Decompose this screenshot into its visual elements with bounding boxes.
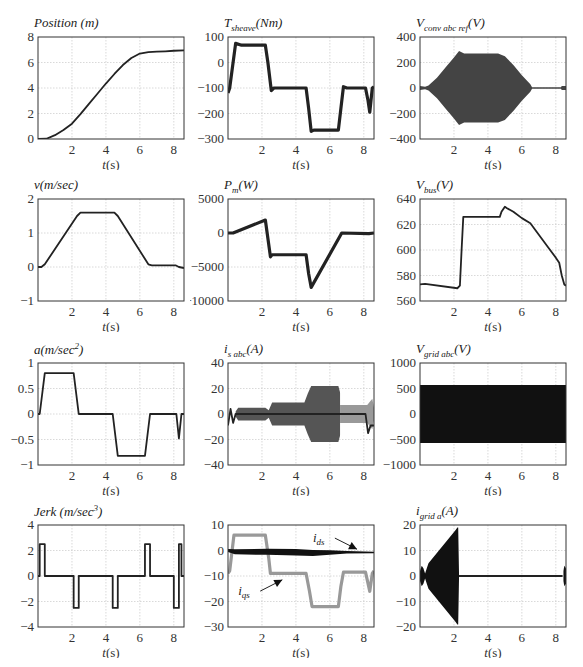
y-tick-label: 200 — [397, 55, 417, 70]
panel-i-s-abc: is abc(A)2468−40−2002040t(s) — [190, 326, 385, 496]
plot-frame — [228, 199, 374, 301]
y-tick-label: −20 — [396, 619, 416, 634]
series-envelope — [420, 51, 566, 125]
panel-v-conv-abc-ref: Vconv abc ref(V)2468−400−2000200400t(s) — [382, 0, 582, 170]
y-tick-label: 620 — [397, 217, 417, 232]
x-tick-label: 8 — [361, 142, 368, 157]
y-tick-label: 1 — [28, 225, 35, 240]
y-tick-label: 2 — [28, 191, 35, 206]
x-tick-label: 8 — [171, 630, 178, 645]
y-tick-label: −10 — [204, 568, 224, 583]
chart-svg: 2468−20−1001020t(s) — [382, 488, 582, 658]
x-tick-label: 2 — [259, 468, 266, 483]
x-tick-label: 8 — [361, 304, 368, 319]
x-axis-label: t(s) — [484, 645, 501, 658]
panel-jerk: Jerk (m/sec3)2468−4−2024t(s) — [0, 488, 195, 658]
chart-svg: 2468−1012t(s) — [0, 162, 195, 332]
x-tick-label: 2 — [69, 142, 76, 157]
y-tick-label: −20 — [204, 594, 224, 609]
x-tick-label: 2 — [451, 630, 458, 645]
y-tick-label: 8 — [28, 29, 35, 44]
series-T_sheave — [228, 43, 374, 131]
chart-svg: 2468−10000−500005000t(s) — [190, 162, 385, 332]
chart-svg: 2468−1000−50005001000t(s) — [382, 326, 582, 496]
chart-svg: idsiqs2468−30−20−10010t(s) — [190, 488, 385, 658]
x-tick-label: 6 — [519, 630, 526, 645]
y-tick-label: 4 — [28, 80, 35, 95]
panel-acceleration: a(m/sec2)2468−1−0.500.51t(s) — [0, 326, 195, 496]
y-tick-label: −2 — [20, 594, 34, 609]
y-tick-label: 400 — [397, 29, 417, 44]
x-tick-label: 6 — [519, 468, 526, 483]
x-tick-label: 6 — [137, 304, 144, 319]
y-tick-label: 5000 — [198, 191, 224, 206]
y-tick-label: 0 — [218, 406, 225, 421]
y-tick-label: 580 — [397, 268, 417, 283]
series-P_m — [228, 220, 374, 287]
y-tick-label: 1000 — [390, 355, 416, 370]
x-tick-label: 4 — [293, 142, 300, 157]
y-tick-label: −1000 — [383, 457, 416, 472]
x-tick-label: 8 — [553, 304, 560, 319]
x-tick-label: 4 — [293, 304, 300, 319]
x-tick-label: 2 — [259, 630, 266, 645]
x-tick-label: 2 — [451, 468, 458, 483]
panel-t-sheave: Tsheave(Nm)2468−300−200−1000100t(s) — [190, 0, 385, 170]
y-tick-label: −300 — [197, 131, 224, 146]
y-tick-label: −20 — [204, 432, 224, 447]
chart-svg: 2468−40−2002040t(s) — [190, 326, 385, 496]
x-tick-label: 2 — [69, 304, 76, 319]
x-tick-label: 2 — [69, 630, 76, 645]
series-v — [38, 213, 184, 268]
panel-position: Position (m)246802468t(s) — [0, 0, 195, 170]
y-tick-label: −200 — [197, 106, 224, 121]
y-tick-label: 20 — [403, 517, 416, 532]
series-jerk — [38, 544, 184, 608]
plot-frame — [38, 199, 184, 301]
y-tick-label: −1 — [20, 457, 34, 472]
y-tick-label: 10 — [211, 517, 224, 532]
x-axis-label: t(s) — [292, 645, 309, 658]
y-tick-label: 0 — [218, 543, 225, 558]
y-tick-label: −40 — [204, 457, 224, 472]
y-tick-label: 0.5 — [18, 381, 34, 396]
chart-svg: 246802468t(s) — [0, 0, 195, 170]
x-tick-label: 4 — [293, 630, 300, 645]
x-tick-label: 8 — [553, 630, 560, 645]
y-tick-label: 0 — [218, 225, 225, 240]
x-tick-label: 2 — [259, 304, 266, 319]
x-tick-label: 6 — [327, 304, 334, 319]
y-tick-label: −200 — [389, 106, 416, 121]
panel-i-dq: idsiqs2468−30−20−10010t(s) — [190, 488, 385, 658]
x-tick-label: 6 — [327, 630, 334, 645]
x-tick-label: 4 — [103, 630, 110, 645]
x-tick-label: 6 — [519, 304, 526, 319]
x-tick-label: 4 — [485, 468, 492, 483]
x-tick-label: 8 — [171, 304, 178, 319]
x-tick-label: 8 — [553, 142, 560, 157]
y-tick-label: 6 — [28, 55, 35, 70]
y-tick-label: 1 — [28, 355, 35, 370]
x-tick-label: 6 — [327, 142, 334, 157]
x-tick-label: 4 — [485, 304, 492, 319]
y-tick-label: 10 — [403, 543, 416, 558]
series-V_bus — [420, 207, 566, 289]
x-tick-label: 2 — [259, 142, 266, 157]
y-tick-label: −0.5 — [10, 432, 34, 447]
y-tick-label: 2 — [28, 543, 35, 558]
x-tick-label: 4 — [103, 468, 110, 483]
x-tick-label: 6 — [137, 142, 144, 157]
panel-p-m: Pm(W)2468−10000−500005000t(s) — [190, 162, 385, 332]
panel-v-bus: Vbus(V)2468560580600620640t(s) — [382, 162, 582, 332]
series-position — [38, 50, 184, 139]
y-tick-label: −1 — [20, 293, 34, 308]
x-tick-label: 8 — [171, 142, 178, 157]
x-tick-label: 2 — [451, 142, 458, 157]
chart-svg: 2468−1−0.500.51t(s) — [0, 326, 195, 496]
x-tick-label: 6 — [137, 630, 144, 645]
y-tick-label: 0 — [218, 55, 225, 70]
y-tick-label: 0 — [28, 131, 35, 146]
panel-velocity: v(m/sec)2468−1012t(s) — [0, 162, 195, 332]
y-tick-label: 600 — [397, 242, 417, 257]
x-tick-label: 4 — [485, 142, 492, 157]
